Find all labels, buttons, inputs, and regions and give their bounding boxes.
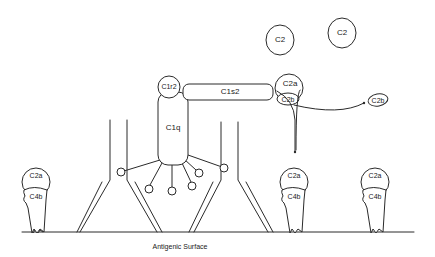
svg-text:C1q: C1q [166,123,181,132]
c1s2: C1s2 [183,84,273,100]
svg-text:C4b: C4b [30,193,43,200]
c4b2a-middle: C2a C4b [280,168,308,233]
antibody-right [189,122,273,232]
svg-text:C2b: C2b [372,97,385,104]
complement-pathway-diagram: Antigenic Surface C2 C2 [0,0,435,257]
free-c2-right: C2 [328,18,356,48]
c1r2: C1r2 [158,76,180,98]
svg-text:C4b: C4b [369,193,382,200]
svg-text:C2a: C2a [30,172,43,179]
arrow-c2a-head [294,151,296,153]
arrow-c2b-head [363,102,365,104]
c4b2a-right: C2a C4b [361,168,389,233]
svg-text:C1s2: C1s2 [221,87,240,96]
svg-text:C2: C2 [275,35,286,44]
antigenic-surface-label: Antigenic Surface [153,243,208,251]
c4b2a-left: C2a C4b [22,168,50,233]
svg-text:C2: C2 [337,28,348,37]
svg-text:C2a: C2a [288,172,301,179]
c1q: C1q [158,92,188,165]
svg-text:C1r2: C1r2 [161,83,176,90]
svg-text:C2a: C2a [283,79,298,88]
svg-text:C4b: C4b [288,193,301,200]
free-c2-left: C2 [266,25,294,55]
svg-text:C2a: C2a [369,172,382,179]
arrow-c2b-release [294,103,364,110]
c2-cleaving: C2a C2b [275,74,303,105]
released-c2b: C2b [367,92,389,107]
